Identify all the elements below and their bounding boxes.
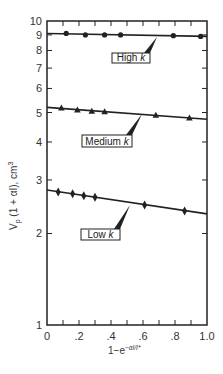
series-label-text: Low k (87, 229, 114, 240)
series-medium-k (47, 105, 207, 121)
x-tick-label: 0 (44, 330, 50, 342)
x-axis: 0.2.4.6.81.0 (44, 21, 215, 342)
series-label-text: High k (117, 52, 146, 63)
leader-pointer (126, 114, 142, 135)
circle-marker (118, 32, 123, 37)
y-tick-label: 8 (36, 44, 42, 56)
circle-marker (171, 33, 176, 38)
label-low-k: Low k (81, 205, 130, 240)
leader-pointer (114, 205, 130, 229)
diamond-marker (81, 191, 86, 200)
x-tick-label: 1.0 (199, 330, 214, 342)
label-high-k: High k (112, 37, 157, 63)
leader-pointer (144, 37, 157, 53)
x-axis-label: 1−e−αI/I* (108, 344, 141, 356)
y-tick-label: 1 (36, 319, 42, 331)
y-tick-label: 2 (36, 227, 42, 239)
diamond-marker (142, 201, 147, 210)
series-labels: High kMedium kLow k (81, 37, 157, 240)
fit-line (47, 33, 207, 36)
x-tick-label: .2 (74, 330, 83, 342)
x-tick-label: .4 (106, 330, 115, 342)
y-tick-label: 4 (36, 136, 42, 148)
plot-frame (47, 21, 207, 325)
y-tick-label: 7 (36, 62, 42, 74)
label-medium-k: Medium k (82, 114, 142, 147)
diamond-marker (93, 193, 98, 202)
circle-marker (64, 31, 69, 36)
circle-marker (198, 34, 203, 39)
chart-canvas: 12345678910 0.2.4.6.81.0 High kMedium kL… (0, 0, 223, 374)
diamond-marker (56, 187, 61, 196)
x-tick-label: .6 (138, 330, 147, 342)
y-tick-label: 5 (36, 107, 42, 119)
circle-marker (83, 32, 88, 37)
series-label-text: Medium k (85, 136, 129, 147)
plot-border (47, 21, 207, 325)
series-high-k (47, 31, 207, 39)
x-tick-label: .8 (170, 330, 179, 342)
y-tick-label: 3 (36, 174, 42, 186)
fit-line (47, 107, 207, 119)
y-tick-label: 6 (36, 82, 42, 94)
y-tick-label: 9 (36, 29, 42, 41)
diamond-marker (182, 207, 187, 216)
diamond-marker (70, 189, 75, 198)
y-tick-label: 10 (30, 15, 42, 27)
circle-marker (102, 32, 107, 37)
y-axis-label: Vp (1 + αI), cm3 (7, 162, 22, 230)
